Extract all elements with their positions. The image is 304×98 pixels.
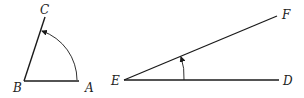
ray-bc	[24, 17, 45, 81]
label-c: C	[40, 3, 49, 17]
label-d: D	[282, 74, 293, 88]
ray-ef	[124, 16, 277, 80]
angle-abc: C B A	[12, 3, 94, 95]
angle-diagram: C B A E D F	[0, 0, 304, 98]
angle-def: E D F	[110, 8, 293, 88]
label-e: E	[110, 74, 120, 88]
label-a: A	[84, 81, 94, 95]
label-b: B	[12, 81, 22, 95]
angle-arc-abc	[42, 31, 77, 80]
angle-arc-def	[181, 57, 184, 80]
label-f: F	[281, 8, 291, 22]
